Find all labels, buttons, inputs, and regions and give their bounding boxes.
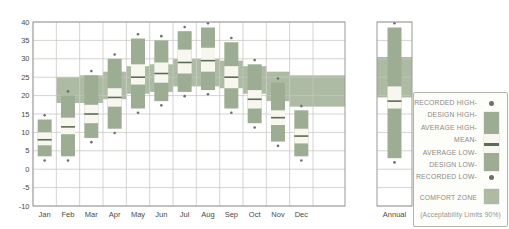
x-tick-label-oct: Oct xyxy=(249,210,262,219)
recorded-high-dot-sep xyxy=(230,37,233,40)
average-range-jan xyxy=(38,132,52,145)
y-tick-label-40: 40 xyxy=(21,18,29,27)
recorded-high-dot-dec xyxy=(300,105,303,108)
y-tick-label-25: 25 xyxy=(21,73,29,82)
y-tick-label-0: 0 xyxy=(25,165,29,174)
x-tick-label-may: May xyxy=(131,210,145,219)
comfort-zone-band-dec xyxy=(290,75,345,106)
recorded-low-dot-jun xyxy=(160,104,163,107)
recorded-low-dot-apr xyxy=(113,132,116,135)
legend-item-average-high: AVERAGE HIGH- xyxy=(414,124,477,134)
y-tick-label-35: 35 xyxy=(21,36,29,45)
recorded-high-dot-oct xyxy=(253,59,256,62)
recorded-low-dot-jul xyxy=(183,95,186,98)
recorded-high-dot-apr xyxy=(113,53,116,56)
x-tick-label-mar: Mar xyxy=(85,210,98,219)
temperature-range-chart-page: 4035302520151050-5-10JanFebMarAprMayJunJ… xyxy=(0,0,509,229)
average-range-jun xyxy=(154,62,168,82)
recorded-high-dot-feb xyxy=(67,90,70,93)
x-tick-label-jun: Jun xyxy=(155,210,167,219)
x-tick-label-aug: Aug xyxy=(201,210,214,219)
legend-item-mean: MEAN- xyxy=(414,136,477,146)
y-tick-label--5: -5 xyxy=(23,183,30,192)
recorded-low-dot-dec xyxy=(300,159,303,162)
average-range-jul xyxy=(178,50,192,74)
legend: RECORDED HIGH- DESIGN HIGH- AVERAGE HIGH… xyxy=(413,92,508,227)
x-tick-label-sep: Sep xyxy=(225,210,238,219)
x-tick-label-jul: Jul xyxy=(180,210,190,219)
legend-item-comfort-zone: COMFORT ZONE xyxy=(414,194,477,204)
average-range-may xyxy=(131,64,145,84)
x-tick-label-dec: Dec xyxy=(295,210,309,219)
recorded-low-dot-nov xyxy=(277,145,280,148)
recorded-low-dot-annual xyxy=(393,161,396,164)
recorded-low-dot-jan xyxy=(43,159,46,162)
y-tick-label-5: 5 xyxy=(25,146,29,155)
average-range-annual xyxy=(388,86,402,108)
recorded-low-dot-sep xyxy=(230,111,233,114)
recorded-high-dot-mar xyxy=(90,70,93,73)
recorded-low-dot-icon xyxy=(489,175,494,180)
comfort-zone-swatch-icon xyxy=(484,189,499,204)
y-tick-label--10: -10 xyxy=(19,202,30,211)
average-range-feb xyxy=(61,118,75,135)
recorded-high-dot-jun xyxy=(160,35,163,38)
recorded-high-dot-jan xyxy=(43,114,46,117)
recorded-high-dot-icon xyxy=(489,101,494,106)
x-tick-label-annual: Annual xyxy=(383,210,407,219)
recorded-low-dot-aug xyxy=(207,93,210,96)
legend-item-recorded-high: RECORDED HIGH- xyxy=(414,99,477,109)
recorded-low-dot-may xyxy=(137,111,140,114)
average-range-aug xyxy=(201,48,215,72)
recorded-low-dot-feb xyxy=(67,159,70,162)
recorded-high-dot-nov xyxy=(277,77,280,80)
legend-item-average-low: AVERAGE LOW- xyxy=(414,149,477,159)
recorded-low-dot-mar xyxy=(90,141,93,144)
range-bar-glyph-icon xyxy=(484,112,499,171)
legend-footnote: (Acceptability Limits 90%) xyxy=(414,211,507,218)
y-tick-label-30: 30 xyxy=(21,54,29,63)
x-tick-label-feb: Feb xyxy=(62,210,75,219)
legend-item-design-high: DESIGN HIGH- xyxy=(414,111,477,121)
y-tick-label-20: 20 xyxy=(21,91,29,100)
recorded-high-dot-may xyxy=(137,33,140,36)
x-tick-label-apr: Apr xyxy=(109,210,121,219)
y-tick-label-10: 10 xyxy=(21,128,29,137)
x-tick-label-jan: Jan xyxy=(39,210,51,219)
legend-item-recorded-low: RECORDED LOW- xyxy=(414,173,477,183)
recorded-high-dot-jul xyxy=(183,26,186,29)
legend-item-design-low: DESIGN LOW- xyxy=(414,161,477,171)
recorded-low-dot-oct xyxy=(253,126,256,129)
y-tick-label-15: 15 xyxy=(21,110,29,119)
x-tick-label-nov: Nov xyxy=(271,210,285,219)
